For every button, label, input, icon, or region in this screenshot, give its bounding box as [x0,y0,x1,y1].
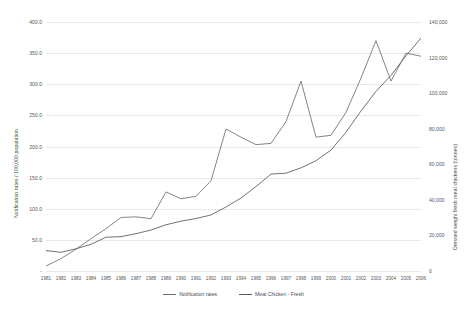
y-axis-right-tick-label: 60,000 [429,161,461,167]
y-axis-left-title: Notification rates / 100,000 population [13,129,19,218]
legend-item[interactable]: Notification rates [163,291,217,297]
y-axis-left-tick-label: 50.0 [16,237,42,243]
y-axis-left-tick-label: 250.0 [16,112,42,118]
y-axis-left-tick-label: 400.0 [16,19,42,25]
y-axis-right-tick-label: 140,000 [429,19,461,25]
legend-line-icon [163,294,176,295]
x-axis-tick-label: 2006 [410,276,432,281]
y-axis-right-tick-label: 40,000 [429,197,461,203]
y-axis-left-tick-label: - [16,268,42,274]
y-axis-right-tick-label: 0 [429,268,461,274]
series-lines [46,22,421,271]
series-line [46,41,421,266]
y-axis-left-tick-label: 350.0 [16,50,42,56]
y-axis-left-tick-label: 200.0 [16,144,42,150]
legend-item[interactable]: Meat Chicken - Fresh [239,291,304,297]
series-line [46,38,421,252]
y-axis-left-tick-label: 100.0 [16,206,42,212]
legend-line-icon [239,294,252,295]
y-axis-right-tick-label: 20,000 [429,232,461,238]
y-axis-right-tick-label: 100,000 [429,90,461,96]
legend-label: Notification rates [179,291,217,297]
legend-label: Meat Chicken - Fresh [255,291,304,297]
y-axis-right-tick-label: 120,000 [429,55,461,61]
gridline [46,271,421,272]
chart-legend: Notification ratesMeat Chicken - Fresh [0,291,467,297]
y-axis-left-tick-label: 300.0 [16,81,42,87]
plot-area [46,22,421,271]
chart-container: Notification rates / 100,000 population … [0,0,467,309]
y-axis-right-tick-label: 80,000 [429,126,461,132]
y-axis-left-tick-label: 150.0 [16,175,42,181]
